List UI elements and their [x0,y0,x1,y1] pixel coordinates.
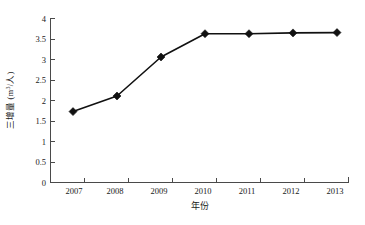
y-tick-label-2.5: 2.5 [35,75,46,85]
y-axis-ticks: 0 0.5 1 1.5 2 2.5 3 3.5 4 [35,14,55,188]
y-tick-label-0.5: 0.5 [35,157,46,167]
y-tick-label-1.5: 1.5 [35,116,46,126]
data-series-group [69,29,341,116]
line-chart-plot: 0 0.5 1 1.5 2 2.5 3 3.5 4 2007 2008 2009… [0,0,365,225]
x-axis-title: 年份 [191,200,209,211]
data-point-2013 [333,29,341,37]
x-tick-label-2007: 2007 [66,186,83,196]
axes-group [51,18,349,183]
data-point-2007 [69,108,77,116]
series-line-path [73,33,337,112]
x-tick-label-2013: 2013 [327,186,344,196]
x-tick-label-2008: 2008 [107,186,124,196]
x-tick-label-2012: 2012 [283,186,300,196]
data-point-2011 [245,30,253,38]
y-tick-label-0: 0 [42,178,46,188]
y-tick-label-3: 3 [42,55,46,65]
data-point-2010 [201,30,209,38]
y-tick-label-4: 4 [42,14,47,24]
x-tick-label-2009: 2009 [151,186,168,196]
y-tick-label-2: 2 [42,96,46,106]
data-point-2012 [289,29,297,37]
y-tick-label-1: 1 [42,137,46,147]
x-axis-ticks: 2007 2008 2009 2010 2011 2012 2013 [66,178,344,196]
x-tick-label-2010: 2010 [195,186,212,196]
y-tick-label-3.5: 3.5 [35,34,46,44]
chart-figure: 三增量 (m3/人) 0 0.5 1 1.5 2 2.5 3 [0,0,365,225]
x-tick-label-2011: 2011 [239,186,256,196]
